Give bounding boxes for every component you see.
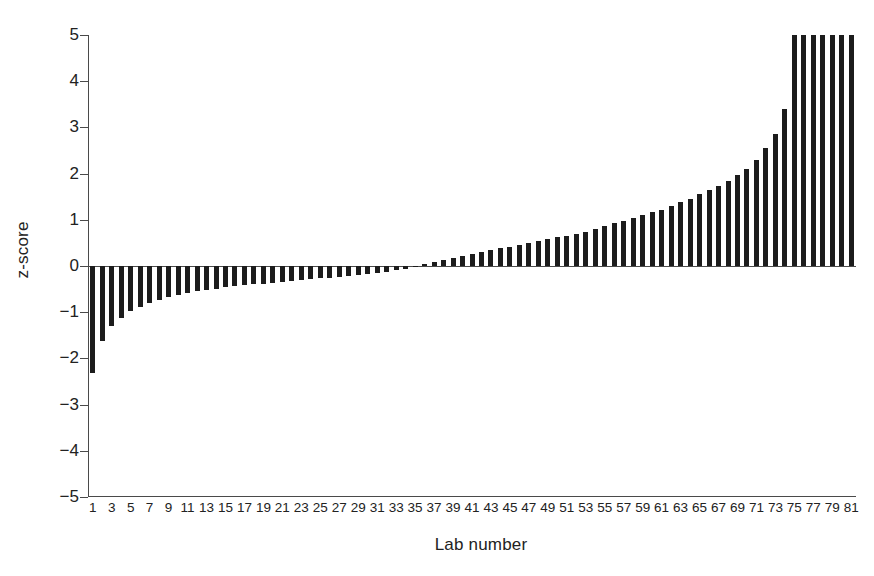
bar xyxy=(346,266,351,276)
bar xyxy=(422,264,427,266)
y-tick-label: 4 xyxy=(70,71,79,91)
bar xyxy=(394,266,399,270)
bar xyxy=(337,266,342,277)
bar xyxy=(375,266,380,273)
bar xyxy=(678,202,683,266)
bar xyxy=(356,266,361,275)
x-tick-label: 53 xyxy=(578,500,593,515)
bar xyxy=(147,266,152,303)
bar xyxy=(299,266,304,280)
bar xyxy=(318,266,323,278)
bar xyxy=(659,210,664,266)
bar xyxy=(536,241,541,266)
bar xyxy=(223,266,228,287)
bar xyxy=(185,266,190,293)
bar xyxy=(441,260,446,266)
bar xyxy=(763,148,768,266)
bar xyxy=(138,266,143,307)
bar xyxy=(754,160,759,266)
bar xyxy=(735,175,740,266)
y-tick-mark xyxy=(80,81,88,82)
y-tick-mark xyxy=(80,127,88,128)
bar xyxy=(782,109,787,266)
bar xyxy=(716,186,721,266)
bar xyxy=(849,35,854,266)
bar xyxy=(214,266,219,289)
x-tick-label: 25 xyxy=(313,500,328,515)
x-tick-label: 37 xyxy=(427,500,442,515)
x-tick-label: 17 xyxy=(237,500,252,515)
bar xyxy=(839,35,844,266)
bar xyxy=(432,262,437,266)
bar xyxy=(593,229,598,266)
y-tick-mark xyxy=(80,451,88,452)
bar xyxy=(507,247,512,266)
bar xyxy=(726,181,731,266)
bar xyxy=(517,245,522,266)
x-tick-label: 1 xyxy=(89,500,97,515)
x-tick-label: 73 xyxy=(768,500,783,515)
bar xyxy=(289,266,294,281)
x-tick-label: 71 xyxy=(749,500,764,515)
bar xyxy=(403,266,408,269)
bar xyxy=(451,258,456,266)
x-tick-label: 15 xyxy=(218,500,233,515)
x-tick-label: 19 xyxy=(256,500,271,515)
bar xyxy=(488,250,493,266)
x-tick-label: 23 xyxy=(294,500,309,515)
y-tick-label: −3 xyxy=(60,395,79,415)
x-tick-label: 9 xyxy=(165,500,173,515)
bar xyxy=(384,266,389,272)
bar xyxy=(232,266,237,286)
bar xyxy=(574,234,579,266)
bar xyxy=(327,266,332,278)
x-tick-label: 77 xyxy=(806,500,821,515)
x-tick-label: 33 xyxy=(389,500,404,515)
bar xyxy=(801,35,806,266)
x-tick-label: 11 xyxy=(181,500,195,515)
x-axis-title-text: Lab number xyxy=(435,535,528,554)
x-tick-label: 61 xyxy=(654,500,669,515)
bar xyxy=(612,223,617,266)
bar xyxy=(811,35,816,266)
y-tick-label: 2 xyxy=(70,164,79,184)
x-tick-label: 43 xyxy=(483,500,498,515)
x-tick-label: 59 xyxy=(635,500,650,515)
x-tick-label: 79 xyxy=(825,500,840,515)
x-tick-label: 65 xyxy=(692,500,707,515)
bar xyxy=(261,266,266,284)
x-tick-label: 29 xyxy=(351,500,366,515)
bar xyxy=(773,134,778,266)
bar xyxy=(479,252,484,266)
y-tick-label: −5 xyxy=(60,487,79,507)
x-tick-label: 3 xyxy=(108,500,116,515)
x-tick-label: 21 xyxy=(275,500,290,515)
bar xyxy=(280,266,285,282)
y-tick-label: 5 xyxy=(70,25,79,45)
x-tick-label: 39 xyxy=(446,500,461,515)
bar xyxy=(195,266,200,291)
x-tick-label: 45 xyxy=(502,500,517,515)
x-tick-label: 13 xyxy=(199,500,214,515)
bar xyxy=(100,266,105,341)
bar xyxy=(650,212,655,266)
x-tick-label: 35 xyxy=(408,500,423,515)
bar xyxy=(242,266,247,285)
bar xyxy=(697,194,702,266)
bar xyxy=(365,266,370,274)
y-tick-mark xyxy=(80,266,88,267)
bar xyxy=(498,248,503,266)
bar xyxy=(631,218,636,266)
bar xyxy=(128,266,133,311)
plot-area: 543210−1−2−3−4−5 xyxy=(88,35,856,497)
bar xyxy=(744,169,749,266)
y-tick-label: 0 xyxy=(70,256,79,276)
bar xyxy=(270,266,275,283)
bar xyxy=(564,236,569,266)
y-tick-mark xyxy=(80,405,88,406)
bar xyxy=(820,35,825,266)
bar xyxy=(460,256,465,266)
y-tick-mark xyxy=(80,174,88,175)
bar xyxy=(602,226,607,266)
bar xyxy=(555,237,560,266)
